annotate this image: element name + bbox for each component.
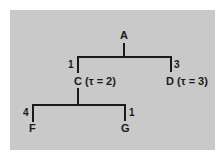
node-g-label: G — [121, 123, 130, 134]
edge-a-c-weight: 1 — [68, 59, 74, 70]
node-a-label: A — [120, 30, 128, 41]
edge-c-g-weight: 1 — [129, 107, 135, 118]
edge-c-f-weight: 4 — [23, 107, 29, 118]
node-c-label: C (τ = 2) — [74, 76, 116, 87]
edge-a-d-weight: 3 — [174, 59, 180, 70]
node-f-label: F — [29, 123, 36, 134]
node-d-label: D (τ = 3) — [166, 76, 208, 87]
